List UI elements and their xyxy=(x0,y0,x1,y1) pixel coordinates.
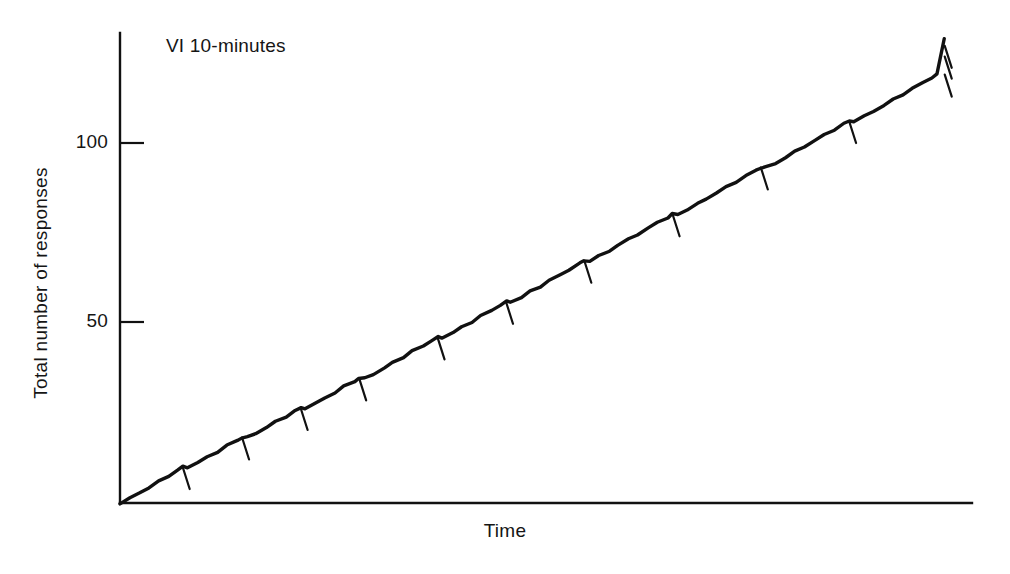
y-tick-group xyxy=(120,143,144,322)
reinforcement-pip xyxy=(183,467,190,489)
reinforcement-pip xyxy=(301,408,308,430)
schedule-annotation-label: VI 10-minutes xyxy=(166,35,286,57)
cumulative-record-figure: 100 50 VI 10-minutes Time Total number o… xyxy=(0,0,1010,574)
reinforcement-pip xyxy=(761,167,768,189)
reinforcement-pip-group xyxy=(183,46,952,489)
cumulative-response-curve xyxy=(120,39,944,504)
chart-canvas xyxy=(0,0,1010,574)
y-axis-tick-label-100: 100 xyxy=(52,131,108,153)
y-axis-tick-label-50: 50 xyxy=(52,310,108,332)
reinforcement-pip xyxy=(849,121,856,143)
reinforcement-pip xyxy=(242,437,249,459)
y-axis-title: Total number of responses xyxy=(30,143,52,423)
axis-group xyxy=(120,33,972,503)
reinforcement-pip xyxy=(438,337,445,359)
x-axis-title: Time xyxy=(0,520,1010,542)
reinforcement-pip xyxy=(584,261,591,283)
reinforcement-pip xyxy=(359,378,366,400)
reinforcement-pip xyxy=(673,214,680,236)
reinforcement-pip xyxy=(506,302,513,324)
